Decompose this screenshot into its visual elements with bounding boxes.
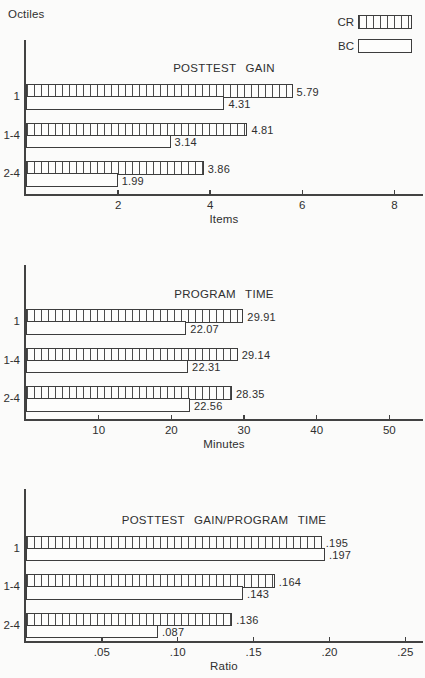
x-tick-posttest-gain-program-time-.20 (329, 637, 330, 642)
x-tick-posttest-gain-4 (209, 190, 210, 195)
bar-program-time-1-bc (26, 321, 186, 335)
x-tick-program-time-50 (389, 415, 390, 420)
value-label-program-time-1-4-cr: 29.14 (242, 349, 271, 361)
figure: Octiles CR BC POSTTEST GAIN5.794.3114.81… (0, 0, 425, 678)
category-label-program-time-1: 1 (0, 315, 20, 327)
x-tick-program-time-30 (243, 415, 244, 420)
x-tick-posttest-gain-program-time-.10 (177, 637, 178, 642)
legend-bc-swatch (358, 39, 412, 53)
bar-program-time-1-4-bc (26, 360, 188, 374)
legend-item-cr: CR (330, 15, 412, 29)
x-axis-label-posttest-gain: Items (26, 213, 422, 225)
category-label-posttest-gain-program-time-1: 1 (0, 542, 20, 554)
x-tick-label-program-time-50: 50 (369, 424, 409, 436)
legend-item-bc: BC (330, 39, 412, 53)
x-tick-label-posttest-gain-program-time-.05: .05 (82, 646, 122, 658)
bar-program-time-2-4-bc (26, 398, 190, 412)
bar-posttest-gain-1-4-bc (26, 135, 171, 149)
x-tick-posttest-gain-8 (394, 190, 395, 195)
bar-posttest-gain-program-time-2-4-bc (26, 625, 158, 639)
x-tick-label-posttest-gain-2: 2 (98, 199, 138, 211)
value-label-program-time-2-4-bc: 22.56 (194, 400, 223, 412)
x-tick-label-posttest-gain-4: 4 (190, 199, 230, 211)
value-label-posttest-gain-program-time-1-4-bc: .143 (247, 588, 269, 600)
x-tick-label-posttest-gain-program-time-.25: .25 (385, 646, 425, 658)
x-tick-program-time-40 (316, 415, 317, 420)
x-tick-posttest-gain-6 (302, 190, 303, 195)
value-label-posttest-gain-program-time-2-4-bc: .087 (162, 626, 184, 638)
x-tick-label-program-time-30: 30 (224, 424, 264, 436)
x-tick-label-program-time-20: 20 (151, 424, 191, 436)
x-tick-program-time-10 (98, 415, 99, 420)
category-label-posttest-gain-program-time-1-4: 1-4 (0, 580, 20, 592)
value-label-program-time-2-4-cr: 28.35 (236, 388, 265, 400)
x-tick-posttest-gain-program-time-.25 (405, 637, 406, 642)
octiles-label: Octiles (8, 8, 45, 20)
legend-cr-label: CR (330, 16, 354, 28)
chart-title-posttest-gain: POSTTEST GAIN (26, 62, 422, 74)
value-label-program-time-1-bc: 22.07 (190, 323, 219, 335)
value-label-posttest-gain-2-4-cr: 3.86 (208, 163, 230, 175)
x-tick-label-posttest-gain-program-time-.15: .15 (234, 646, 274, 658)
x-tick-label-posttest-gain-8: 8 (374, 199, 414, 211)
value-label-posttest-gain-1-bc: 4.31 (228, 98, 250, 110)
bar-posttest-gain-2-4-bc (26, 173, 118, 187)
legend-cr-swatch (358, 15, 412, 29)
x-tick-label-posttest-gain-program-time-.20: .20 (309, 646, 349, 658)
x-tick-posttest-gain-program-time-.05 (101, 637, 102, 642)
value-label-posttest-gain-program-time-2-4-cr: .136 (236, 614, 258, 626)
x-tick-label-program-time-10: 10 (79, 424, 119, 436)
value-label-posttest-gain-1-4-bc: 3.14 (175, 136, 197, 148)
x-tick-label-posttest-gain-6: 6 (282, 199, 322, 211)
category-label-program-time-2-4: 2-4 (0, 392, 20, 404)
x-tick-label-posttest-gain-program-time-.10: .10 (158, 646, 198, 658)
bar-posttest-gain-1-bc (26, 96, 224, 110)
legend-bc-label: BC (330, 40, 354, 52)
x-tick-label-program-time-40: 40 (297, 424, 337, 436)
value-label-posttest-gain-program-time-1-bc: .197 (329, 549, 351, 561)
x-axis-posttest-gain-program-time (24, 641, 423, 643)
value-label-program-time-1-cr: 29.91 (247, 311, 276, 323)
value-label-posttest-gain-1-cr: 5.79 (297, 86, 319, 98)
x-axis-label-posttest-gain-program-time: Ratio (26, 660, 422, 672)
x-tick-posttest-gain-2 (117, 190, 118, 195)
value-label-posttest-gain-program-time-1-cr: .195 (326, 537, 348, 549)
bar-posttest-gain-program-time-1-4-bc (26, 586, 243, 600)
chart-title-posttest-gain-program-time: POSTTEST GAIN/PROGRAM TIME (26, 514, 422, 526)
category-label-program-time-1-4: 1-4 (0, 354, 20, 366)
value-label-posttest-gain-1-4-cr: 4.81 (251, 124, 273, 136)
x-tick-posttest-gain-program-time-.15 (253, 637, 254, 642)
category-label-posttest-gain-1-4: 1-4 (0, 129, 20, 141)
x-tick-program-time-20 (171, 415, 172, 420)
value-label-posttest-gain-2-4-bc: 1.99 (122, 175, 144, 187)
value-label-program-time-1-4-bc: 22.31 (192, 361, 221, 373)
bar-posttest-gain-program-time-1-bc (26, 548, 325, 562)
x-axis-program-time (24, 419, 423, 421)
x-axis-posttest-gain (24, 194, 423, 196)
x-axis-label-program-time: Minutes (26, 438, 422, 450)
category-label-posttest-gain-1: 1 (0, 90, 20, 102)
chart-title-program-time: PROGRAM TIME (26, 288, 422, 300)
category-label-posttest-gain-2-4: 2-4 (0, 167, 20, 179)
value-label-posttest-gain-program-time-1-4-cr: .164 (279, 576, 301, 588)
category-label-posttest-gain-program-time-2-4: 2-4 (0, 619, 20, 631)
